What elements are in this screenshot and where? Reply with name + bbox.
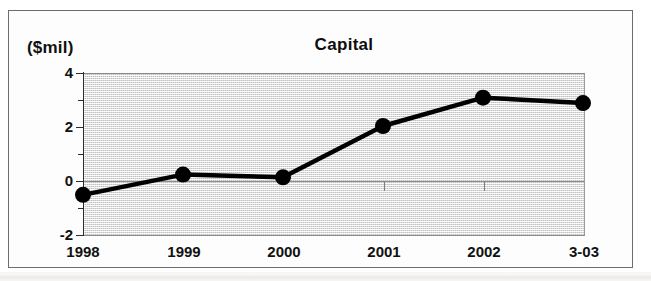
y-tick-0 [76,181,84,182]
x-axis-label-2001: 2001 [339,243,429,260]
x-axis-label-2000: 2000 [239,243,329,260]
x-axis-label-1998: 1998 [38,243,128,260]
y-axis-label-2: 2 [17,118,73,135]
y-tick-3 [78,100,84,101]
y-axis-label-4: 4 [17,64,73,81]
x-axis-label-3-03: 3-03 [539,243,629,260]
x-axis-label-1999: 1999 [139,243,229,260]
x-tick-2002 [484,182,485,191]
y-tick-2 [76,127,84,128]
x-tick-2001 [384,182,385,191]
x-axis-label-2002: 2002 [439,243,529,260]
y-axis-labels: 4 2 0 -2 [15,11,73,281]
zero-baseline [84,181,584,182]
y-tick-4 [76,73,84,74]
chart-frame: ($mil) Capital 4 2 0 -2 1998 1999 2000 2… [8,10,633,268]
chart-figure: ($mil) Capital 4 2 0 -2 1998 1999 2000 2… [0,0,651,281]
y-tick-minus1 [78,208,84,209]
y-axis-label-0: 0 [17,172,73,189]
chart-title: Capital [239,35,449,55]
y-tick-1 [78,154,84,155]
y-tick-minus2 [76,235,84,236]
scan-artifact-strip [0,272,651,281]
x-axis-line [84,235,585,236]
plot-area [84,73,585,236]
y-axis-label-minus2: -2 [17,226,73,243]
